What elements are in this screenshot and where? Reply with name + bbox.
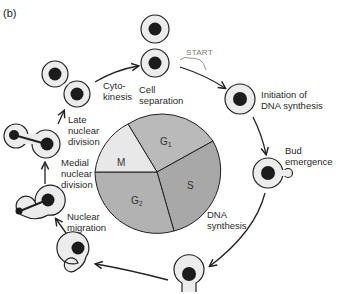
cell-cycle-pie (95, 114, 221, 233)
nuclear-migration-cell (57, 232, 89, 272)
phase-g2: G2 (131, 195, 143, 207)
phase-g1: G1 (160, 136, 172, 148)
arrow-late-division (58, 111, 64, 124)
daughter-cell-top (141, 15, 169, 43)
phase-s: S (187, 180, 194, 191)
phase-m: M (117, 157, 125, 168)
label-dna-synthesis: DNA synthesis (207, 209, 247, 231)
arrow-start (180, 67, 225, 88)
label-cell-separation: Cell separation (139, 84, 183, 106)
label-medial-nuclear-division: Medial nuclear division (61, 157, 93, 190)
initiation-cell (225, 84, 255, 114)
late-division-cell (4, 124, 60, 158)
label-late-nuclear-division: Late nuclear division (68, 114, 100, 147)
label-cytokinesis: Cyto- kinesis (103, 80, 132, 102)
arrow-nuclear-migration (56, 219, 66, 233)
label-initiation-dna-synthesis: Initiation of DNA synthesis (261, 89, 323, 111)
arrow-to-migration (96, 264, 168, 280)
medial-division-cell (16, 185, 66, 219)
bud-growth-cell (174, 255, 204, 292)
label-nuclear-migration: Nuclear migration (67, 211, 106, 233)
panel-label: (b) (3, 7, 16, 19)
cytokinesis-cell (42, 61, 90, 107)
cell-separation-cell (141, 49, 169, 77)
start-label: START (186, 48, 213, 57)
arrow-to-bud (253, 117, 266, 154)
label-bud-emergence: Bud emergence (285, 145, 333, 167)
